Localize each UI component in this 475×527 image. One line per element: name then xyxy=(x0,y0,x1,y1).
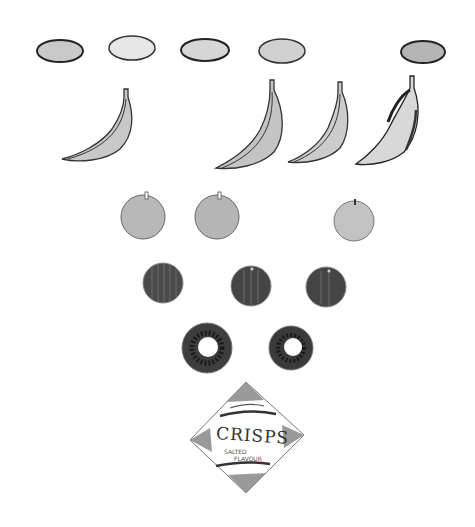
plum-3 xyxy=(305,266,350,311)
doughnut-1 xyxy=(181,322,236,377)
oval-2 xyxy=(108,34,158,62)
apple-3 xyxy=(331,198,381,243)
oval-3 xyxy=(181,37,231,65)
oval-1 xyxy=(36,38,86,66)
banana-2 xyxy=(214,80,294,175)
doughnut-2 xyxy=(268,324,318,374)
banana-3 xyxy=(286,80,356,170)
banana-4 xyxy=(352,76,422,171)
oval-4 xyxy=(258,37,308,65)
plum-2 xyxy=(230,265,275,310)
apple-2 xyxy=(193,192,243,242)
plum-1 xyxy=(142,261,187,306)
crisps-line2: FLAVOUR xyxy=(234,455,262,462)
oval-5 xyxy=(400,38,450,66)
crisps-packet: CRISPS SALTED FLAVOUR xyxy=(186,380,306,495)
crisps-line1: SALTED xyxy=(224,448,247,455)
banana-1 xyxy=(58,85,138,170)
apple-1 xyxy=(119,192,169,242)
